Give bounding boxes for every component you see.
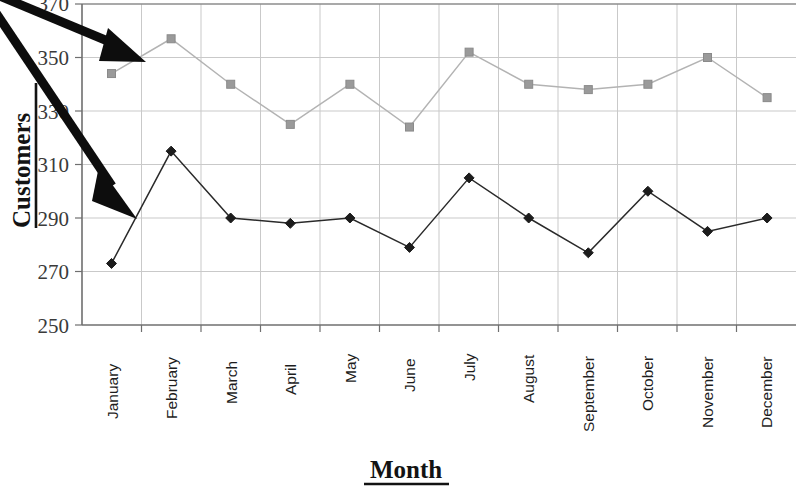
data-point-march [227, 80, 235, 88]
data-point-january [108, 70, 116, 78]
x-tick-label-october: October [639, 356, 656, 411]
data-point-december [763, 94, 771, 102]
data-point-september [584, 86, 592, 94]
x-tickmarks [142, 325, 737, 332]
x-axis-title: Month [370, 456, 442, 483]
y-axis-title: Customers [8, 112, 35, 228]
data-point-november [704, 54, 712, 62]
x-tick-label-june: June [401, 358, 418, 392]
x-tick-label-july: July [461, 353, 478, 381]
x-axis-title-group: Month [364, 456, 449, 484]
x-tick-label-may: May [342, 353, 359, 383]
x-tick-label-august: August [520, 354, 537, 403]
y-tick-label: 290 [38, 207, 70, 231]
y-axis-title-group: Customers [8, 83, 36, 228]
data-point-april [286, 120, 294, 128]
y-tick-label: 310 [38, 153, 70, 177]
y-tick-label: 270 [38, 260, 70, 284]
data-point-august [525, 80, 533, 88]
x-tick-labels: January February March April May June Ju… [104, 353, 775, 432]
y-tickmarks [75, 4, 82, 325]
x-tick-label-november: November [699, 357, 716, 429]
data-point-october [644, 80, 652, 88]
y-tick-labels: 370 350 330 310 290 270 250 [38, 0, 70, 338]
x-tick-label-february: February [163, 357, 180, 419]
line-chart: 370 350 330 310 290 270 250 January Febr… [0, 0, 798, 491]
data-point-may [346, 80, 354, 88]
data-point-february [167, 35, 175, 43]
data-point-june [406, 123, 414, 131]
x-tick-label-march: March [223, 361, 240, 404]
chart-canvas: 370 350 330 310 290 270 250 January Febr… [0, 0, 798, 491]
data-point-july [465, 48, 473, 56]
x-tick-label-december: December [758, 357, 775, 429]
x-tick-label-april: April [282, 364, 299, 395]
y-tick-label: 350 [38, 46, 70, 70]
y-tick-label: 250 [38, 314, 70, 338]
x-tick-label-september: September [580, 356, 597, 432]
x-tick-label-january: January [104, 364, 121, 419]
